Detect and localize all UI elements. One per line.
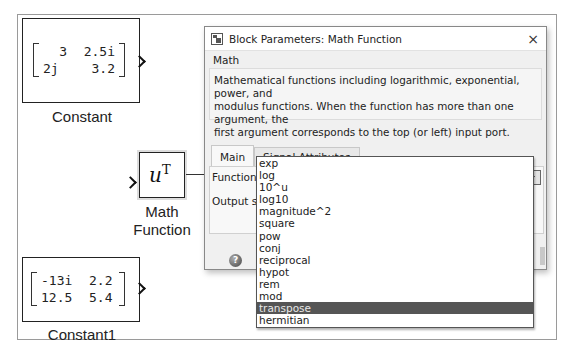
section-title: Math <box>213 54 239 66</box>
matrix-cell: 12.5 <box>41 289 75 306</box>
constant-matrix: 3 2.5i 2j 3.2 <box>33 43 125 77</box>
description-line: first argument corresponds to the top (o… <box>214 126 537 139</box>
dialog-title: Block Parameters: Math Function <box>229 33 520 45</box>
dropdown-option-10-pow-u[interactable]: 10^u <box>257 181 533 193</box>
matrix-cell: 3.2 <box>81 60 115 77</box>
matrix-cell: 5.4 <box>89 289 115 306</box>
constant1-label[interactable]: Constant1 <box>40 326 124 343</box>
math-function-label-line1[interactable]: Math <box>122 203 202 220</box>
description-line: Mathematical functions including logarit… <box>214 74 537 100</box>
dropdown-option-log10[interactable]: log10 <box>257 193 533 205</box>
scroll-handle[interactable] <box>540 247 545 265</box>
close-button[interactable]: × <box>520 31 546 47</box>
dropdown-option-pow[interactable]: pow <box>257 230 533 242</box>
dropdown-option-square[interactable]: square <box>257 217 533 229</box>
right-bracket <box>119 272 125 306</box>
symbol-u: u <box>149 163 162 187</box>
math-function-label-line2[interactable]: Function <box>122 221 202 238</box>
dropdown-option-hermitian[interactable]: hermitian <box>257 314 533 326</box>
output-signal-line[interactable] <box>186 174 206 175</box>
function-dropdown-list[interactable]: exp log 10^u log10 magnitude^2 square po… <box>256 156 534 328</box>
left-bracket <box>33 43 39 77</box>
constant-block[interactable]: 3 2.5i 2j 3.2 <box>22 18 140 103</box>
function-label: Function: <box>212 171 260 183</box>
dropdown-option-log[interactable]: log <box>257 169 533 181</box>
description-box: Mathematical functions including logarit… <box>209 68 542 120</box>
constant-label[interactable]: Constant <box>40 108 124 125</box>
dropdown-option-conj[interactable]: conj <box>257 242 533 254</box>
matrix-cell: 2.5i <box>81 43 115 60</box>
symbol-superscript: T <box>162 162 171 177</box>
dropdown-option-exp[interactable]: exp <box>257 157 533 169</box>
matrix-cell: 2.2 <box>89 272 115 289</box>
math-function-block[interactable]: uT <box>139 152 185 198</box>
dialog-titlebar[interactable]: Block Parameters: Math Function × <box>205 27 546 51</box>
right-bracket <box>119 43 125 77</box>
dropdown-option-reciprocal[interactable]: reciprocal <box>257 254 533 266</box>
tab-main[interactable]: Main <box>211 145 254 166</box>
matrix-cell: 3 <box>43 43 67 60</box>
math-symbol: uT <box>149 162 171 187</box>
left-bracket <box>31 272 37 306</box>
description-line: modulus functions. When the function has… <box>214 100 537 126</box>
dropdown-option-magnitude-squared[interactable]: magnitude^2 <box>257 205 533 217</box>
dropdown-option-transpose[interactable]: transpose <box>257 302 533 314</box>
constant1-matrix: -13i 2.2 12.5 5.4 <box>31 272 125 306</box>
matrix-cell: -13i <box>41 272 75 289</box>
matrix-cell: 2j <box>43 60 67 77</box>
dropdown-option-rem[interactable]: rem <box>257 278 533 290</box>
dropdown-option-hypot[interactable]: hypot <box>257 266 533 278</box>
dropdown-option-mod[interactable]: mod <box>257 290 533 302</box>
constant1-block[interactable]: -13i 2.2 12.5 5.4 <box>22 257 140 322</box>
help-icon[interactable]: ? <box>229 254 242 267</box>
simulink-block-icon <box>211 33 223 45</box>
